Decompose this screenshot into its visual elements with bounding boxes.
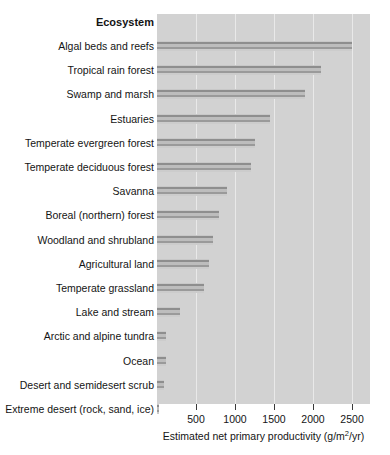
x-tick-label: 500: [187, 413, 205, 425]
bar-row: Tropical rain forest: [0, 58, 390, 82]
bar: [157, 65, 321, 75]
x-tick-label: 2000: [301, 413, 324, 425]
bar-row: Temperate deciduous forest: [0, 155, 390, 179]
bar-row-label: Ocean: [123, 355, 154, 367]
bar-row-label: Algal beds and reefs: [58, 40, 154, 52]
bar-row-label: Temperate deciduous forest: [24, 161, 154, 173]
bar: [157, 114, 270, 124]
bar-row: Savanna: [0, 179, 390, 203]
bar-row-label: Woodland and shrubland: [37, 234, 154, 246]
bar-row-label: Boreal (northern) forest: [45, 209, 154, 221]
bar-row: Swamp and marsh: [0, 82, 390, 106]
x-tick-label: 1000: [223, 413, 246, 425]
bar-row: Arctic and alpine tundra: [0, 324, 390, 348]
bar-row: Temperate grassland: [0, 276, 390, 300]
x-tick-label: 1500: [262, 413, 285, 425]
bar-row-label: Estuaries: [110, 113, 154, 125]
bar-row: Temperate evergreen forest: [0, 131, 390, 155]
bar: [157, 162, 251, 172]
bar-row-label: Savanna: [113, 185, 154, 197]
bar-row: Estuaries: [0, 107, 390, 131]
x-axis-title-suffix: /yr): [349, 430, 364, 442]
bar-row-label: Agricultural land: [79, 258, 154, 270]
bar: [157, 235, 213, 245]
bar-row: Lake and stream: [0, 300, 390, 324]
x-tick-mark: [274, 404, 275, 410]
bar-row: Algal beds and reefs: [0, 34, 390, 58]
bar: [157, 89, 305, 99]
x-axis-title-prefix: Estimated net primary productivity (g/m: [163, 430, 345, 442]
bar: [157, 259, 209, 269]
bar-row-label: Tropical rain forest: [67, 64, 154, 76]
category-axis-header: Ecosystem: [96, 16, 154, 28]
bar-row: Woodland and shrubland: [0, 228, 390, 252]
bar: [157, 186, 227, 196]
x-tick-mark: [313, 404, 314, 410]
bar-row-label: Lake and stream: [76, 306, 154, 318]
x-tick-label: 2500: [340, 413, 363, 425]
x-tick-mark: [235, 404, 236, 410]
bar: [157, 138, 255, 148]
bar: [157, 356, 166, 366]
bar: [157, 283, 204, 293]
bar: [157, 41, 352, 51]
bar-row-label: Temperate grassland: [56, 282, 154, 294]
bar: [157, 331, 166, 341]
bar: [157, 307, 180, 317]
bar-row-label: Arctic and alpine tundra: [44, 330, 154, 342]
bar-row: Ocean: [0, 349, 390, 373]
category-header-row: Ecosystem: [0, 10, 390, 34]
x-tick-mark: [352, 404, 353, 410]
x-axis-title: Estimated net primary productivity (g/m2…: [157, 430, 370, 442]
npp-bar-chart: Ecosystem Algal beds and reefsTropical r…: [0, 0, 390, 455]
bar: [157, 210, 219, 220]
bar-row-label: Swamp and marsh: [66, 88, 154, 100]
bar-row-label: Temperate evergreen forest: [25, 137, 154, 149]
bar-row: Agricultural land: [0, 252, 390, 276]
bar-row-label: Desert and semidesert scrub: [20, 379, 154, 391]
bar-row: Boreal (northern) forest: [0, 203, 390, 227]
x-tick-mark: [196, 404, 197, 410]
bar-row: Desert and semidesert scrub: [0, 373, 390, 397]
x-axis: 5001000150020002500 Estimated net primar…: [0, 404, 390, 455]
bar: [157, 380, 164, 390]
